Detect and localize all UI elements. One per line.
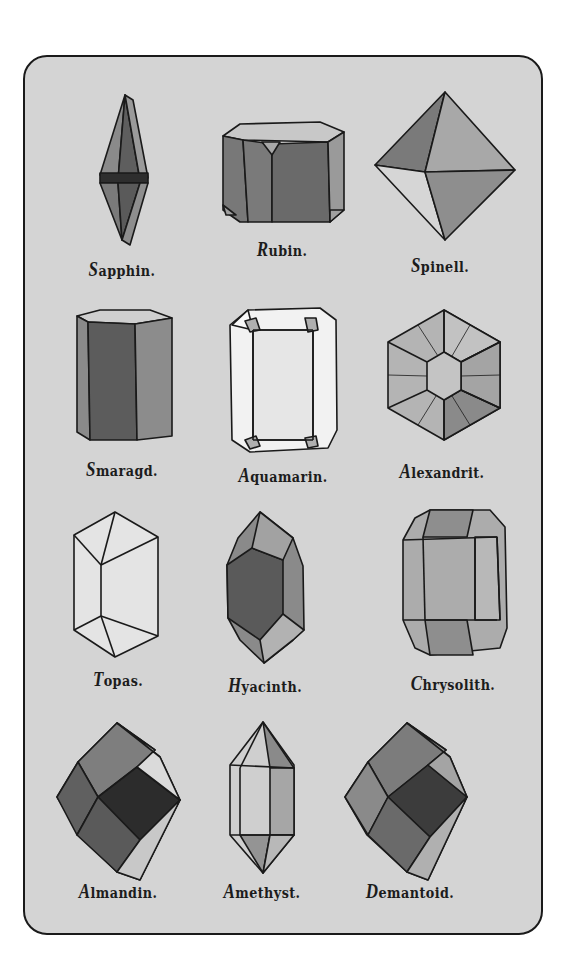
crystal-alexandrit — [388, 310, 500, 440]
label-text: quamarin. — [250, 468, 327, 486]
label-text: maragd. — [96, 462, 158, 480]
crystal-amethyst — [230, 722, 294, 873]
label-text: lexandrit. — [411, 464, 484, 482]
crystal-smaragd — [77, 310, 172, 440]
label-text: opas. — [104, 672, 143, 690]
label-smaragd: Smaragd. — [86, 458, 158, 481]
crystal-aquamarin — [230, 308, 337, 452]
label-amethyst: Amethyst. — [224, 880, 301, 903]
label-initial: A — [238, 464, 250, 486]
label-alexandrit: Alexandrit. — [400, 460, 485, 483]
label-rubin: Rubin. — [257, 238, 308, 261]
label-text: apphin. — [98, 262, 155, 280]
label-initial: R — [257, 238, 269, 260]
label-hyacinth: Hyacinth. — [228, 674, 302, 697]
label-initial: A — [400, 460, 412, 482]
crystal-sapphin — [100, 95, 148, 245]
crystal-hyacinth — [227, 512, 304, 663]
crystal-topas — [74, 512, 158, 657]
label-initial: C — [411, 672, 423, 694]
label-demantoid: Demantoid. — [366, 880, 454, 903]
crystal-chrysolith — [403, 510, 507, 655]
crystal-spinell — [375, 92, 515, 240]
crystal-rubin — [223, 122, 344, 222]
label-initial: D — [366, 880, 379, 902]
label-text: methyst. — [235, 884, 300, 902]
label-text: emantoid. — [379, 884, 455, 902]
label-text: pinell. — [421, 258, 469, 276]
label-initial: A — [79, 880, 91, 902]
label-initial: S — [89, 258, 99, 280]
label-text: yacinth. — [242, 678, 303, 696]
label-chrysolith: Chrysolith. — [411, 672, 495, 695]
crystal-demantoid — [345, 723, 467, 880]
crystal-plate-illustration — [0, 0, 572, 975]
label-initial: H — [228, 674, 242, 696]
label-text: hrysolith. — [423, 676, 496, 694]
label-text: lmandin. — [91, 884, 158, 902]
label-initial: A — [224, 880, 236, 902]
label-almandin: Almandin. — [79, 880, 158, 903]
label-topas: Topas. — [93, 668, 143, 691]
crystal-almandin — [57, 723, 180, 880]
label-initial: T — [93, 668, 104, 690]
label-text: ubin. — [268, 242, 307, 260]
label-aquamarin: Aquamarin. — [238, 464, 327, 487]
label-initial: S — [411, 254, 421, 276]
label-sapphin: Sapphin. — [89, 258, 156, 281]
label-initial: S — [86, 458, 96, 480]
label-spinell: Spinell. — [411, 254, 469, 277]
